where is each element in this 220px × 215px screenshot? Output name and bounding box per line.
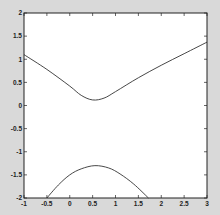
x-tick-label: -0.5 <box>41 200 53 207</box>
x-tick-label: 0.5 <box>88 200 97 207</box>
figure: -1-0.500.511.522.53 21.510.50-0.5-1-1.5-… <box>0 0 220 215</box>
x-tick-label: 3 <box>205 200 209 207</box>
x-tick-label: -1 <box>21 200 27 207</box>
y-tick-label: 2 <box>18 9 22 16</box>
x-tick-label: 1 <box>114 200 118 207</box>
y-tick-label: -2 <box>16 194 22 201</box>
y-tick-label: 1.5 <box>13 32 22 39</box>
x-tick-label: 2 <box>159 200 163 207</box>
axes-area <box>24 13 207 198</box>
y-tick-label: 0.5 <box>13 79 22 86</box>
x-tick-label: 2.5 <box>180 200 189 207</box>
y-tick-label: -0.5 <box>11 125 23 132</box>
y-tick-label: 0 <box>18 102 22 109</box>
y-tick-label: 1 <box>18 56 22 63</box>
y-tick-label: -1 <box>16 148 22 155</box>
x-tick-label: 0 <box>68 200 72 207</box>
y-tick-label: -1.5 <box>11 171 23 178</box>
x-tick-label: 1.5 <box>134 200 143 207</box>
